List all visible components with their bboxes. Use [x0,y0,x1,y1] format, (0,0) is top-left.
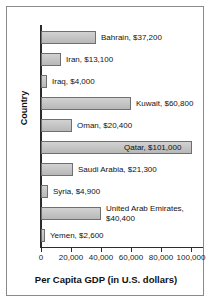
bar[interactable] [41,229,45,242]
bar-label: Saudi Arabia, $21,300 [78,165,157,175]
bar-label: Iran, $13,100 [66,55,113,65]
x-axis-tick [161,248,162,252]
bar[interactable] [41,53,61,66]
bar-label: United Arab Emirates, [106,204,184,214]
bar-row[interactable]: Syria, $4,900 [41,185,203,198]
bar-label: Yemen, $2,600 [50,231,104,241]
bar-label: Syria, $4,900 [53,187,100,197]
bar-row[interactable]: Kuwait, $60,800 [41,97,203,110]
x-tick-label: 80,000 [149,253,173,263]
bar[interactable] [41,163,73,176]
bar-row[interactable]: Yemen, $2,600 [41,229,203,242]
x-axis-title: Per Capita GDP (in U.S. dollars) [7,274,205,285]
chart-figure: Country 0 20,000 40,000 60,000 80,000 10… [0,0,212,304]
bar-label: Oman, $20,400 [77,121,132,131]
x-tick-label: 60,000 [119,253,143,263]
bar-row[interactable]: Saudi Arabia, $21,300 [41,163,203,176]
x-tick-label: 40,000 [89,253,113,263]
bar-label: Qatar, $101,000 [124,143,181,153]
x-tick-label: 20,000 [59,253,83,263]
x-axis-tick [131,248,132,252]
bar-row[interactable]: Qatar, $101,000 [41,141,203,154]
bar[interactable] [41,207,101,220]
x-axis-line [40,247,203,248]
x-axis-tick [71,248,72,252]
y-axis-title: Country [19,63,29,153]
bar-row[interactable]: Iran, $13,100 [41,53,203,66]
bar-row[interactable]: Bahrain, $37,200 [41,31,203,44]
bar-label-continuation: $40,400 [106,214,135,224]
x-axis-tick [191,248,192,252]
chart-frame: Country 0 20,000 40,000 60,000 80,000 10… [6,6,204,296]
bar[interactable] [41,97,131,110]
bar-label: Bahrain, $37,200 [101,33,162,43]
x-tick-label: 100,000 [177,253,206,263]
bar[interactable] [41,185,48,198]
bar-label: Kuwait, $60,800 [136,99,193,109]
x-axis-tick [41,248,42,252]
bar[interactable] [41,119,72,132]
x-axis-tick [101,248,102,252]
bar-row[interactable]: Oman, $20,400 [41,119,203,132]
x-tick-label: 0 [39,253,43,263]
bar-label: Iraq, $4,000 [52,77,95,87]
x-axis-tick-labels: 0 20,000 40,000 60,000 80,000 100,000 [7,253,205,267]
bar-row[interactable]: Iraq, $4,000 [41,75,203,88]
bar-row[interactable]: United Arab Emirates, $40,400 [41,207,203,220]
bar[interactable] [41,75,47,88]
plot-area: Bahrain, $37,200 Iran, $13,100 Iraq, $4,… [41,25,203,247]
bar[interactable] [41,31,96,44]
